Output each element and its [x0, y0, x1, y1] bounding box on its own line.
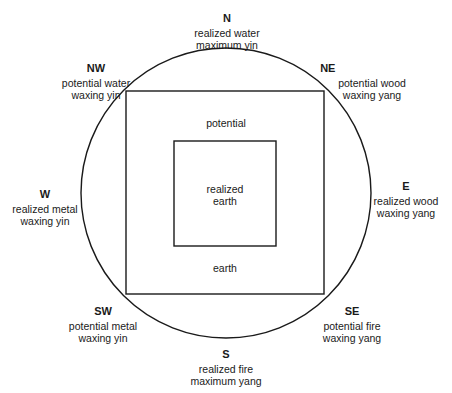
direction-sw: SW: [69, 305, 137, 318]
label-east: E realized wood waxing yang: [374, 180, 439, 219]
southwest-line1: potential metal: [69, 320, 137, 332]
outer-square-bottom-label: earth: [213, 262, 237, 274]
northeast-line1: potential wood: [338, 77, 406, 89]
direction-w: W: [12, 188, 77, 201]
west-line2: waxing yin: [12, 215, 77, 227]
northwest-line2: waxing yin: [62, 89, 130, 101]
direction-n: N: [194, 12, 259, 25]
northeast-line2: waxing yang: [338, 89, 406, 101]
north-line2: maximum yin: [194, 39, 259, 51]
south-line1: realized fire: [190, 363, 261, 375]
label-southwest: SW potential metal waxing yin: [69, 305, 137, 344]
outer-square-top-label: potential: [206, 117, 246, 129]
west-line1: realized metal: [12, 203, 77, 215]
label-northwest: NW potential water waxing yin: [62, 62, 130, 101]
direction-ne: NE: [320, 62, 406, 75]
southwest-line2: waxing yin: [69, 332, 137, 344]
southeast-line1: potential fire: [323, 320, 381, 332]
label-northeast: NE potential wood waxing yang: [338, 62, 406, 101]
label-southeast: SE potential fire waxing yang: [323, 305, 381, 344]
direction-s: S: [190, 348, 261, 361]
direction-e: E: [374, 180, 439, 193]
inner-line1: realized: [207, 183, 244, 195]
direction-se: SE: [323, 305, 381, 318]
label-west: W realized metal waxing yin: [12, 188, 77, 227]
northwest-line1: potential water: [62, 77, 130, 89]
east-line1: realized wood: [374, 195, 439, 207]
east-line2: waxing yang: [374, 207, 439, 219]
inner-square-label: realized earth: [207, 183, 244, 207]
label-south: S realized fire maximum yang: [190, 348, 261, 387]
inner-line2: earth: [207, 195, 244, 207]
north-line1: realized water: [194, 27, 259, 39]
southeast-line2: waxing yang: [323, 332, 381, 344]
label-north: N realized water maximum yin: [194, 12, 259, 51]
direction-nw: NW: [62, 62, 130, 75]
south-line2: maximum yang: [190, 375, 261, 387]
